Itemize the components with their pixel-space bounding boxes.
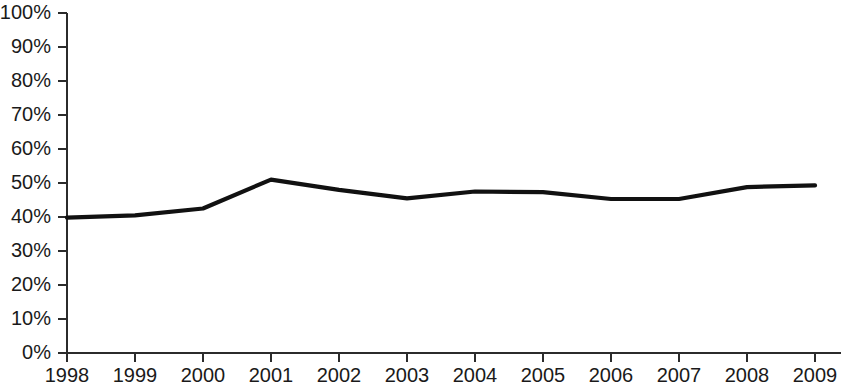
x-tick-label: 2007: [657, 364, 702, 386]
y-tick-label: 90%: [11, 35, 51, 57]
x-tick-label: 2003: [385, 364, 430, 386]
x-tick-label: 2002: [317, 364, 362, 386]
x-tick-label: 1999: [113, 364, 158, 386]
x-tick-label: 2009: [793, 364, 838, 386]
line-chart: 0%10%20%30%40%50%60%70%80%90%100% 199819…: [0, 0, 841, 392]
y-tick-label: 60%: [11, 137, 51, 159]
y-tick-label: 100%: [0, 1, 51, 23]
x-tick-label: 1998: [45, 364, 90, 386]
y-tick-label: 10%: [11, 307, 51, 329]
x-tick-label: 2005: [521, 364, 566, 386]
x-tick-label: 2001: [249, 364, 294, 386]
x-tick-label: 2004: [453, 364, 498, 386]
y-tick-label: 20%: [11, 273, 51, 295]
y-tick-label: 30%: [11, 239, 51, 261]
x-tick-label: 2006: [589, 364, 634, 386]
x-tick-label: 2008: [725, 364, 770, 386]
y-tick-label: 80%: [11, 69, 51, 91]
y-tick-label: 0%: [22, 341, 51, 363]
chart-canvas: 0%10%20%30%40%50%60%70%80%90%100% 199819…: [0, 0, 841, 392]
y-tick-label: 40%: [11, 205, 51, 227]
x-tick-label: 2000: [181, 364, 226, 386]
y-tick-label: 70%: [11, 103, 51, 125]
y-tick-label: 50%: [11, 171, 51, 193]
